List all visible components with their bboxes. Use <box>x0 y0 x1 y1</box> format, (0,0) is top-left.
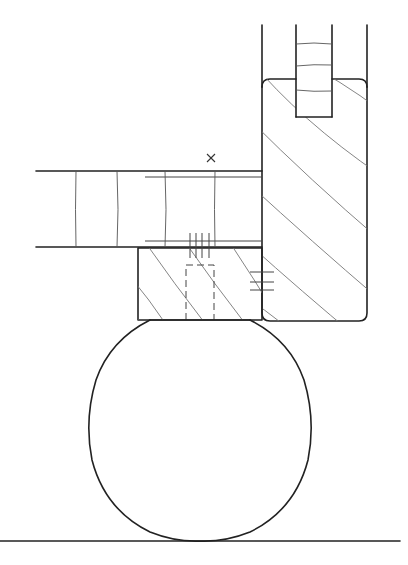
reference-x-mark <box>207 154 215 162</box>
vertical-fastener-ticks <box>190 233 209 258</box>
tenon <box>296 25 332 117</box>
ball <box>89 320 311 541</box>
hidden-dowel-outline <box>186 265 214 320</box>
post-hatching <box>250 60 380 340</box>
drawing-canvas <box>0 0 408 565</box>
vertical-post <box>250 25 380 340</box>
horizontal-beam <box>36 171 262 247</box>
